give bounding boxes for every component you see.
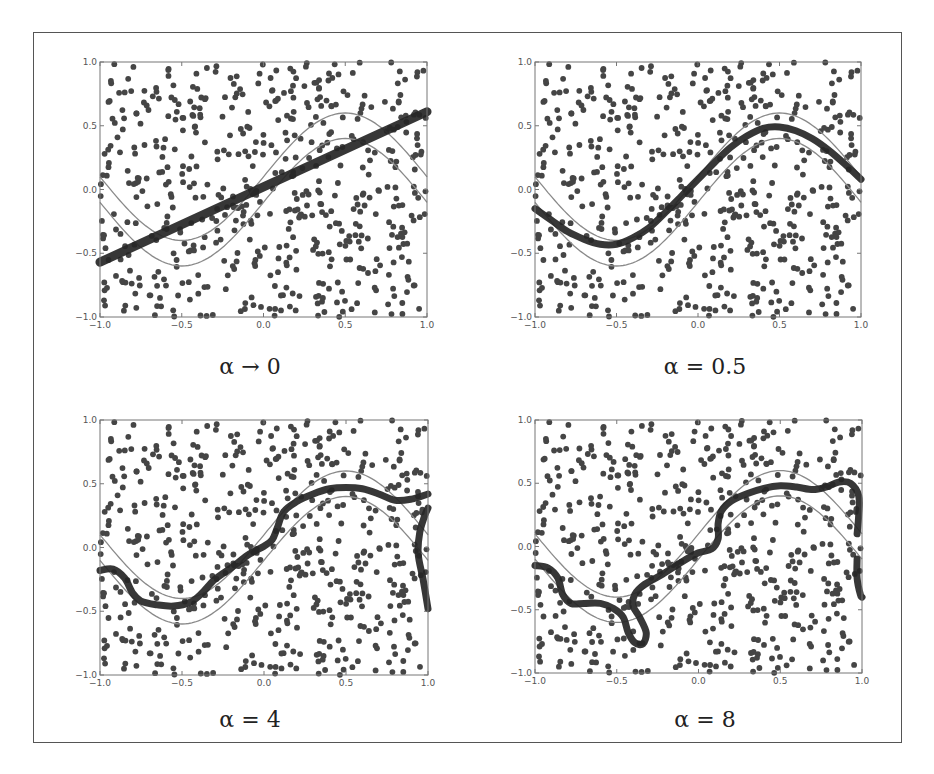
x-tick-label: 0.5 xyxy=(339,678,353,688)
y-tick-label: 1.0 xyxy=(518,57,533,67)
scatter-points xyxy=(533,418,864,676)
scatter-points xyxy=(533,60,863,320)
caption-alpha-8: α = 8 xyxy=(605,707,805,732)
y-tick-label: −1.0 xyxy=(75,670,97,680)
y-tick-label: −0.5 xyxy=(510,605,532,615)
x-tick-label: −0.5 xyxy=(606,676,628,686)
x-tick-label: 1.0 xyxy=(421,678,436,688)
caption-alpha-4: α = 4 xyxy=(150,707,350,732)
y-tick-label: −0.5 xyxy=(75,248,97,258)
caption-alpha-0-5: α = 0.5 xyxy=(605,354,805,379)
x-tick-label: 0.5 xyxy=(338,320,352,330)
x-tick-label: 0.0 xyxy=(256,320,271,330)
y-tick-label: 0.5 xyxy=(83,479,97,489)
y-tick-label: 0.0 xyxy=(83,543,98,553)
x-tick-label: 1.0 xyxy=(855,676,870,686)
y-tick-label: 0.5 xyxy=(518,121,532,131)
x-tick-label: 1.0 xyxy=(854,320,869,330)
y-tick-label: −1.0 xyxy=(510,312,532,322)
y-tick-label: 0.5 xyxy=(518,478,532,488)
y-tick-label: −0.5 xyxy=(510,248,532,258)
y-tick-label: 0.0 xyxy=(518,185,533,195)
scatter-plot: −1.0−0.50.00.51.0−1.0−0.50.00.51.0 xyxy=(535,420,862,673)
x-tick-label: 0.5 xyxy=(773,676,787,686)
x-tick-label: 0.0 xyxy=(691,320,706,330)
scatter-plot: −1.0−0.50.00.51.0−1.0−0.50.00.51.0 xyxy=(535,62,861,317)
x-tick-label: −0.5 xyxy=(171,678,193,688)
x-tick-label: 0.5 xyxy=(772,320,786,330)
caption-alpha-0: α → 0 xyxy=(150,354,350,379)
y-tick-label: 1.0 xyxy=(83,57,98,67)
x-tick-label: 0.0 xyxy=(691,676,706,686)
x-tick-label: 1.0 xyxy=(420,320,435,330)
scatter-plot: −1.0−0.50.00.51.0−1.0−0.50.00.51.0 xyxy=(100,420,428,675)
y-tick-label: 0.0 xyxy=(83,185,98,195)
y-tick-label: −0.5 xyxy=(75,606,97,616)
fitted-curve-branch xyxy=(857,559,862,597)
y-tick-label: 0.0 xyxy=(518,542,533,552)
x-tick-label: −0.5 xyxy=(171,320,193,330)
y-tick-label: 1.0 xyxy=(83,415,98,425)
y-tick-label: −1.0 xyxy=(510,668,532,678)
y-tick-label: 0.5 xyxy=(83,121,97,131)
scatter-plot: −1.0−0.50.00.51.0−1.0−0.50.00.51.0 xyxy=(100,62,427,317)
y-tick-label: 1.0 xyxy=(518,415,533,425)
y-tick-label: −1.0 xyxy=(75,312,97,322)
x-tick-label: 0.0 xyxy=(257,678,272,688)
x-tick-label: −0.5 xyxy=(606,320,628,330)
